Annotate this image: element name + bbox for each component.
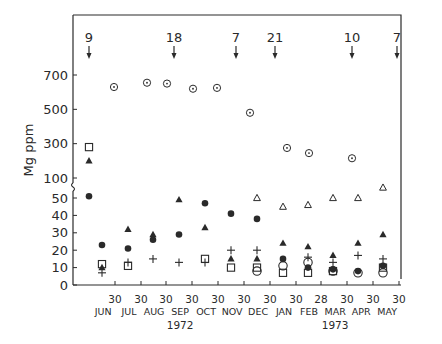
month-label: NOV <box>222 306 243 317</box>
x-axis: 30JUN30JUL30AUG30SEP30OCT30NOV30DEC30JAN… <box>94 281 406 331</box>
data-point-circle-dot <box>189 85 196 92</box>
month-label: DEC <box>248 306 268 317</box>
x-tick-label: 30 <box>134 293 147 305</box>
data-point-plus <box>201 258 209 266</box>
y-tick-label: 700 <box>43 68 68 83</box>
data-point-triangle-filled <box>304 243 311 249</box>
annotation-label: 18 <box>166 30 183 45</box>
data-point-triangle-filled <box>253 255 260 261</box>
data-point-plus <box>175 258 183 266</box>
arrow-down-icon <box>350 53 355 59</box>
data-point-circle-dot <box>213 84 220 91</box>
data-point-plus <box>253 246 261 254</box>
annotation-label: 7 <box>232 30 240 45</box>
data-point-square-open <box>227 264 234 271</box>
data-point-circle-filled <box>176 231 183 238</box>
arrow-down-icon <box>234 53 239 59</box>
x-tick-label: 30 <box>211 293 224 305</box>
annotation-label: 21 <box>267 30 284 45</box>
arrow-annotations: 918721107 <box>85 30 401 59</box>
y-tick-label: 300 <box>43 136 68 151</box>
data-point-triangle-filled <box>227 255 234 261</box>
y-tick-label: 50 <box>51 191 68 206</box>
scatter-chart: 01020304050100300500700 30JUN30JUL30AUG3… <box>0 0 442 344</box>
month-label: FEB <box>300 306 318 317</box>
y-tick-label: 20 <box>51 243 68 258</box>
data-points <box>85 79 387 277</box>
data-point-plus <box>124 258 132 266</box>
y-tick-label: 10 <box>51 260 68 275</box>
data-point-circle-filled <box>228 210 235 217</box>
month-label: JUL <box>121 306 138 317</box>
data-point-triangle-open <box>280 203 287 209</box>
year-label: 1973 <box>322 319 349 331</box>
x-tick-label: 30 <box>159 293 172 305</box>
data-point-circle-dot <box>305 150 312 157</box>
x-tick-label: 30 <box>366 293 379 305</box>
month-label: JUN <box>94 306 112 317</box>
month-label: APR <box>352 306 371 317</box>
data-point-triangle-filled <box>329 252 336 258</box>
data-point-circle-dot <box>283 144 290 151</box>
data-point-triangle-open <box>254 194 261 200</box>
data-point-triangle-filled <box>85 157 92 163</box>
year-label: 1972 <box>167 319 194 331</box>
data-point-triangle-open <box>355 194 362 200</box>
data-point-triangle-filled <box>175 196 182 202</box>
data-point-plus <box>379 255 387 263</box>
data-point-plus <box>227 246 235 254</box>
x-tick-label: 30 <box>289 293 302 305</box>
data-point-triangle-filled <box>279 239 286 245</box>
x-tick-label: 30 <box>263 293 276 305</box>
data-point-circle-filled <box>202 200 209 207</box>
data-point-plus <box>354 251 362 259</box>
data-point-circle-filled <box>86 193 93 200</box>
x-tick-label: 30 <box>108 293 121 305</box>
arrow-down-icon <box>172 53 177 59</box>
x-tick-label: 30 <box>392 293 405 305</box>
month-label: SEP <box>171 306 189 317</box>
month-label: AUG <box>144 306 165 317</box>
arrow-down-icon <box>395 53 400 59</box>
data-point-triangle-filled <box>124 226 131 232</box>
x-tick-label: 30 <box>340 293 353 305</box>
data-point-triangle-filled <box>149 231 156 237</box>
data-point-triangle-filled <box>379 231 386 237</box>
x-tick-label: 30 <box>237 293 250 305</box>
data-point-circle-open <box>379 269 387 277</box>
y-tick-label: 100 <box>43 171 68 186</box>
y-tick-label: 500 <box>43 102 68 117</box>
arrow-down-icon <box>273 53 278 59</box>
arrow-down-icon <box>87 53 92 59</box>
data-point-circle-filled <box>125 245 132 252</box>
data-point-circle-dot <box>143 79 150 86</box>
annotation-label: 7 <box>393 30 401 45</box>
data-point-circle-dot <box>348 155 355 162</box>
month-label: MAY <box>377 306 397 317</box>
data-point-circle-dot <box>163 80 170 87</box>
month-label: MAR <box>324 306 346 317</box>
y-tick-label: 0 <box>60 278 68 293</box>
data-point-triangle-filled <box>354 239 361 245</box>
data-point-circle-dot <box>110 83 117 90</box>
x-tick-label: 28 <box>314 293 327 305</box>
data-point-triangle-open <box>380 184 387 190</box>
y-axis-label: Mg ppm <box>21 124 36 177</box>
data-point-triangle-open <box>330 194 337 200</box>
y-tick-label: 30 <box>51 225 68 240</box>
data-point-circle-filled <box>150 236 157 243</box>
x-tick-label: 30 <box>185 293 198 305</box>
data-point-plus <box>149 255 157 263</box>
annotation-label: 10 <box>344 30 361 45</box>
data-point-plus <box>329 258 337 266</box>
month-label: OCT <box>196 306 216 317</box>
data-point-circle-filled <box>99 242 106 249</box>
data-point-triangle-open <box>305 201 312 207</box>
data-point-circle-dot <box>246 109 253 116</box>
y-tick-label: 40 <box>51 208 68 223</box>
data-point-triangle-filled <box>201 224 208 230</box>
annotation-label: 9 <box>85 30 93 45</box>
data-point-square-open <box>85 144 92 151</box>
y-axis: 01020304050100300500700 <box>43 68 77 293</box>
data-point-circle-filled <box>254 216 261 223</box>
